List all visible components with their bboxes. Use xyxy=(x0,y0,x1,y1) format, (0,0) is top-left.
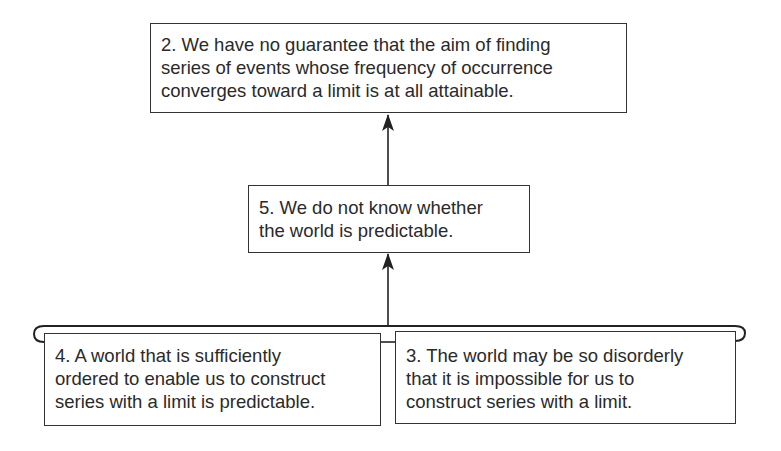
node-text-line: the world is predictable. xyxy=(259,219,529,242)
node-text-line: construct series with a limit. xyxy=(406,390,735,413)
node-text-line: converges toward a limit is at all attai… xyxy=(161,79,626,102)
node-text-line: that it is impossible for us to xyxy=(406,367,735,390)
node-5-unknown-predictability: 5. We do not know whether the world is p… xyxy=(248,185,530,253)
node-text-line: 3. The world may be so disorderly xyxy=(406,344,735,367)
node-text-line: ordered to enable us to construct xyxy=(55,367,380,390)
node-text-line: 2. We have no guarantee that the aim of … xyxy=(161,33,626,56)
node-text-line: 4. A world that is sufficiently xyxy=(55,344,380,367)
node-3-disorderly-world: 3. The world may be so disorderly that i… xyxy=(395,331,736,424)
node-text-line: 5. We do not know whether xyxy=(259,196,529,219)
node-text-line: series with a limit is predictable. xyxy=(55,390,380,413)
node-4-ordered-world: 4. A world that is sufficiently ordered … xyxy=(44,333,381,426)
node-text-line: series of events whose frequency of occu… xyxy=(161,56,626,79)
node-2-no-guarantee: 2. We have no guarantee that the aim of … xyxy=(150,23,627,113)
